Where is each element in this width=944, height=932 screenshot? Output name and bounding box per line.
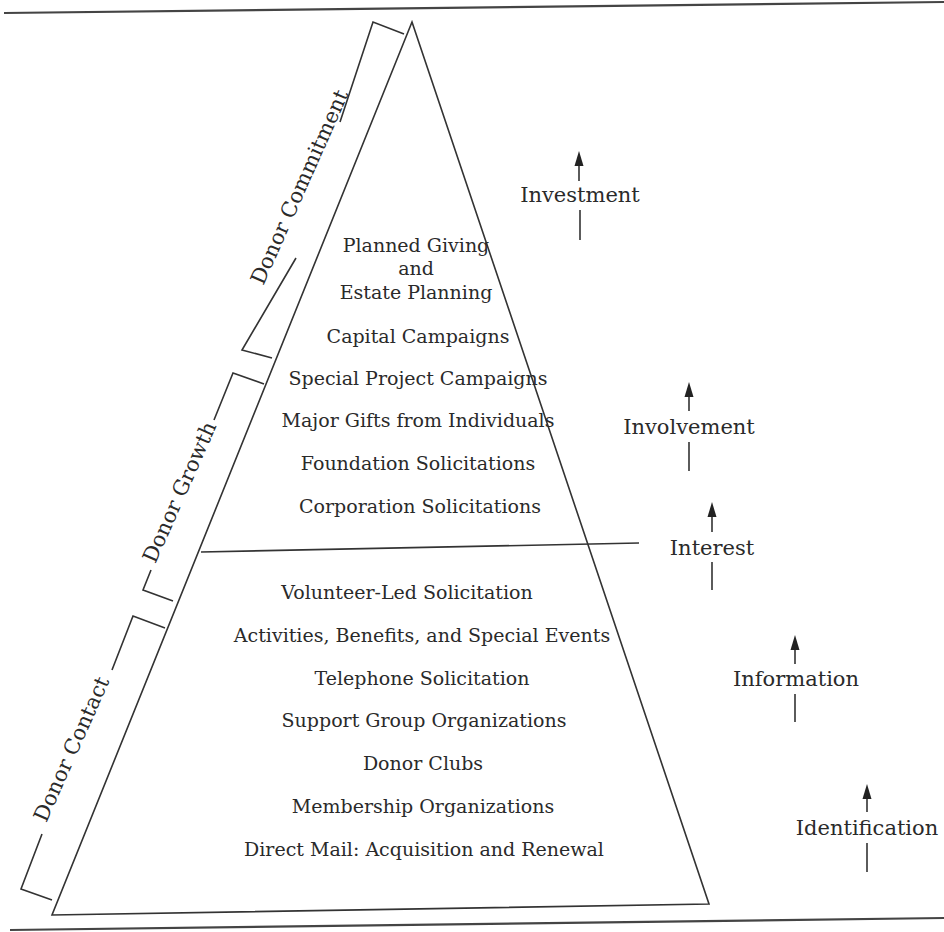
upper-item: and	[398, 257, 434, 279]
bracket-label: Donor Commitment	[246, 86, 354, 288]
lower-item: Support Group Organizations	[282, 709, 567, 731]
lower-item: Volunteer-Led Solicitation	[280, 581, 532, 603]
lower-section-items: Volunteer-Led Solicitation Activities, B…	[233, 581, 610, 860]
stage-label: Interest	[670, 536, 755, 560]
stage-involvement: Involvement	[623, 382, 755, 471]
top-rule	[4, 2, 944, 13]
upper-item: Capital Campaigns	[327, 325, 510, 347]
stage-label: Identification	[796, 816, 938, 840]
up-arrow-icon	[685, 382, 694, 397]
stage-identification: Identification	[796, 784, 938, 872]
up-arrow-icon	[791, 635, 800, 650]
bracket-donor-contact: Donor Contact	[21, 616, 165, 900]
bracket-donor-commitment: Donor Commitment	[242, 22, 404, 358]
up-arrow-icon	[708, 502, 717, 517]
lower-item: Activities, Benefits, and Special Events	[233, 624, 610, 646]
upper-item: Special Project Campaigns	[289, 367, 548, 389]
pyramid-divider	[201, 543, 639, 552]
up-arrow-icon	[863, 784, 872, 799]
donor-pyramid-diagram: Planned Giving and Estate Planning Capit…	[0, 0, 944, 932]
stage-interest: Interest	[670, 502, 755, 590]
up-arrow-icon	[575, 151, 584, 166]
upper-section-items: Planned Giving and Estate Planning Capit…	[282, 234, 555, 517]
upper-item: Major Gifts from Individuals	[282, 409, 555, 431]
stage-label: Involvement	[623, 415, 755, 439]
stage-label: Investment	[520, 183, 640, 207]
stage-label: Information	[733, 667, 859, 691]
upper-item: Estate Planning	[340, 281, 493, 303]
upper-item: Planned Giving	[343, 234, 490, 256]
bracket-label: Donor Contact	[29, 673, 115, 826]
bracket-donor-growth: Donor Growth	[138, 373, 264, 601]
upper-item: Foundation Solicitations	[301, 452, 535, 474]
lower-item: Direct Mail: Acquisition and Renewal	[244, 838, 604, 860]
lower-item: Donor Clubs	[363, 752, 483, 774]
bottom-rule	[10, 918, 944, 930]
stage-information: Information	[733, 635, 859, 722]
lower-item: Membership Organizations	[292, 795, 554, 817]
upper-item: Corporation Solicitations	[299, 495, 541, 517]
lower-item: Telephone Solicitation	[315, 667, 530, 689]
bracket-label: Donor Growth	[138, 418, 222, 566]
stage-investment: Investment	[520, 151, 640, 240]
